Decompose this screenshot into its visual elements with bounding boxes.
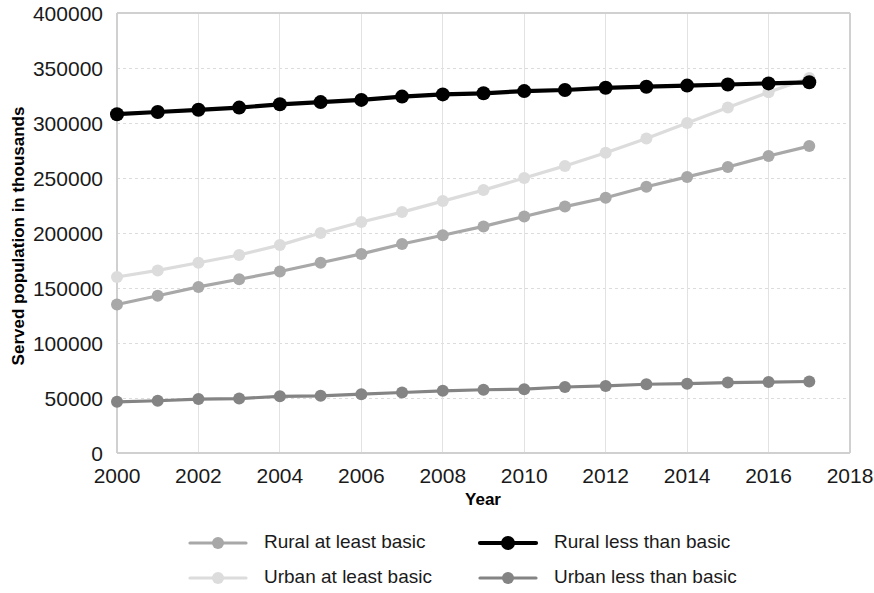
data-point [802,75,816,89]
data-point [233,273,245,285]
data-point [396,206,408,218]
chart-legend: Rural at least basicRural less than basi… [190,531,737,587]
y-axis-tick-labels: 0500001000001500002000002500003000003500… [33,2,103,465]
data-point [274,390,286,402]
data-point [518,211,530,223]
data-point [640,378,652,390]
data-point [559,201,571,213]
data-point [233,393,245,405]
data-point [354,93,368,107]
data-point [274,266,286,278]
legend-item[interactable]: Rural at least basic [190,531,426,552]
line-chart: 0500001000001500002000002500003000003500… [0,0,874,593]
legend-label: Rural at least basic [264,531,426,552]
data-point [558,83,572,97]
y-axis-tick-label: 400000 [33,2,103,25]
legend-item[interactable]: Urban less than basic [480,566,737,587]
data-point [395,90,409,104]
legend-label: Urban at least basic [264,566,432,587]
legend-item[interactable]: Urban at least basic [190,566,432,587]
series-urban-less-than-basic [111,376,815,408]
data-point [518,172,530,184]
series-line [117,82,809,114]
data-point [151,105,165,119]
x-axis-tick-label: 2016 [745,464,792,487]
data-point [559,160,571,172]
data-point [517,84,531,98]
data-point [639,80,653,94]
legend-marker [212,572,224,584]
data-point [355,388,367,400]
data-point [518,383,530,395]
x-axis-tick-label: 2002 [175,464,222,487]
data-point [722,161,734,173]
legend-marker [212,537,224,549]
series-rural-at-least-basic [111,140,815,310]
data-point [681,378,693,390]
data-point [191,103,205,117]
data-point [396,387,408,399]
data-point [640,181,652,193]
legend-marker [502,572,514,584]
data-point [680,79,694,93]
data-point [478,384,490,396]
data-point [315,257,327,269]
data-point [681,117,693,129]
y-axis-tick-label: 100000 [33,332,103,355]
data-point [559,381,571,393]
data-point [763,150,775,162]
data-point [274,239,286,251]
data-point [640,132,652,144]
data-point [437,229,449,241]
chart-container: 0500001000001500002000002500003000003500… [0,0,874,593]
data-point [437,195,449,207]
data-point [803,140,815,152]
data-point [600,147,612,159]
data-point [478,220,490,232]
data-point [315,390,327,402]
data-point [315,227,327,239]
data-point [110,107,124,121]
data-point [273,97,287,111]
data-point [803,376,815,388]
data-point [600,192,612,204]
data-point [192,281,204,293]
data-point [152,290,164,302]
data-point [192,393,204,405]
y-axis-tick-label: 200000 [33,222,103,245]
legend-item[interactable]: Rural less than basic [480,531,730,552]
data-point [111,271,123,283]
x-axis-tick-label: 2014 [664,464,711,487]
series-urban-at-least-basic [111,72,815,283]
data-point [111,299,123,311]
legend-marker [501,536,515,550]
x-axis-title: Year [465,490,501,509]
x-axis-tick-label: 2006 [338,464,385,487]
legend-label: Rural less than basic [554,531,730,552]
y-axis-tick-label: 50000 [45,387,103,410]
data-series-group [110,72,816,408]
data-point [437,385,449,397]
y-axis-tick-label: 300000 [33,112,103,135]
y-axis-tick-label: 150000 [33,277,103,300]
data-point [477,86,491,100]
x-axis-tick-label: 2000 [94,464,141,487]
data-point [232,101,246,115]
series-line [117,382,809,402]
data-point [763,376,775,388]
data-point [355,216,367,228]
y-axis-tick-label: 350000 [33,57,103,80]
x-axis-tick-label: 2008 [419,464,466,487]
data-point [599,81,613,95]
data-point [233,249,245,261]
data-point [355,248,367,260]
data-point [722,102,734,114]
x-axis-tick-label: 2018 [827,464,874,487]
data-point [111,396,123,408]
data-point [396,238,408,250]
x-axis-tick-labels: 2000200220042006200820102012201420162018 [94,464,874,487]
data-point [762,76,776,90]
data-point [478,184,490,196]
data-point [152,264,164,276]
data-point [722,377,734,389]
